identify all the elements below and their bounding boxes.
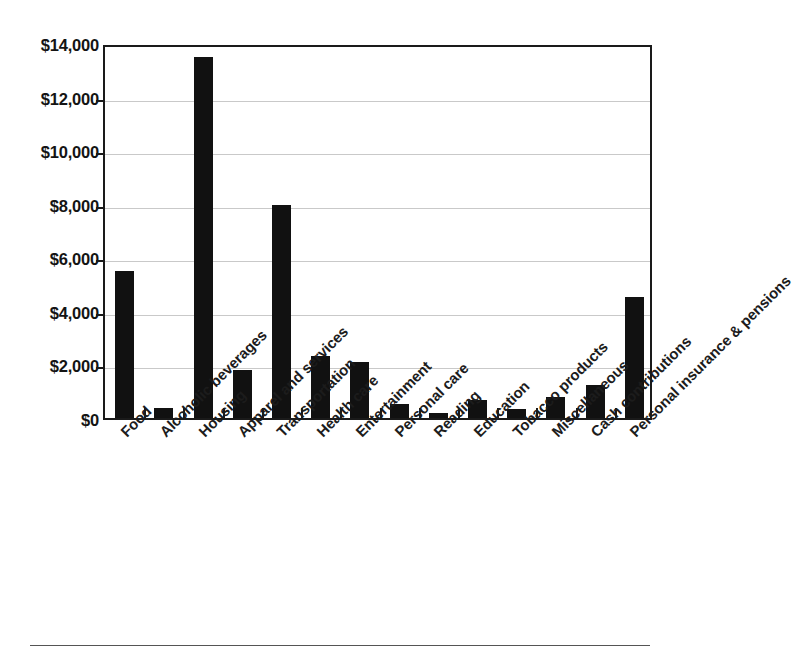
y-tick-label: $14,000: [7, 36, 99, 55]
x-tick-mark: [144, 408, 146, 418]
y-tick-mark: [96, 207, 105, 209]
y-tick-label: $12,000: [7, 89, 99, 108]
x-tick-mark: [380, 408, 382, 418]
x-tick-mark: [497, 408, 499, 418]
x-tick-mark: [419, 408, 421, 418]
x-tick-mark: [458, 408, 460, 418]
bar: [625, 297, 644, 418]
bar: [468, 400, 487, 418]
bottom-divider: [30, 645, 650, 646]
x-tick-mark: [576, 408, 578, 418]
y-tick-mark: [96, 260, 105, 262]
bar: [233, 370, 252, 418]
gridline: [105, 368, 650, 369]
x-tick-mark: [615, 408, 617, 418]
bar: [390, 404, 409, 418]
y-tick-label: $0: [7, 411, 99, 430]
bar: [194, 57, 213, 418]
y-tick-label: $8,000: [7, 196, 99, 215]
x-tick-mark: [340, 408, 342, 418]
bar: [507, 409, 526, 418]
gridline: [105, 208, 650, 209]
x-tick-mark: [183, 408, 185, 418]
gridline: [105, 261, 650, 262]
plot-area: [103, 45, 652, 420]
bar: [311, 356, 330, 418]
bar: [272, 205, 291, 418]
y-axis: $0$2,000$4,000$6,000$8,000$10,000$12,000…: [0, 0, 99, 662]
y-tick-label: $6,000: [7, 250, 99, 269]
x-tick-mark: [536, 408, 538, 418]
gridline: [105, 154, 650, 155]
bar: [115, 271, 134, 418]
y-tick-mark: [96, 367, 105, 369]
y-tick-mark: [96, 153, 105, 155]
y-tick-label: $10,000: [7, 143, 99, 162]
y-tick-mark: [96, 100, 105, 102]
y-tick-label: $2,000: [7, 357, 99, 376]
gridline: [105, 101, 650, 102]
gridline: [105, 315, 650, 316]
bar: [586, 385, 605, 418]
y-tick-label: $4,000: [7, 303, 99, 322]
bar: [429, 413, 448, 418]
x-tick-mark: [301, 408, 303, 418]
x-tick-mark: [262, 408, 264, 418]
y-tick-mark: [96, 314, 105, 316]
bar: [154, 408, 173, 418]
x-tick-mark: [223, 408, 225, 418]
bar: [546, 397, 565, 418]
bar: [350, 362, 369, 418]
